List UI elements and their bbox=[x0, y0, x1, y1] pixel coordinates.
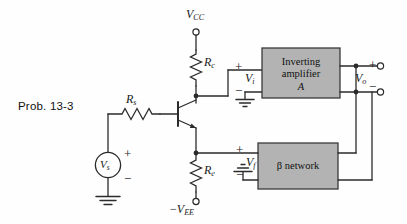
vf-plus-sign: + bbox=[236, 143, 243, 156]
rc-label: Rc bbox=[204, 56, 215, 70]
schematic-figure: Prob. 13-3 VCC Rc Re −VEE Rs Vs + − + − … bbox=[0, 0, 407, 224]
vi-minus-sign: − bbox=[235, 84, 242, 97]
vo-label: Vo bbox=[355, 72, 366, 86]
amplifier-label-line2: amplifier bbox=[262, 68, 340, 80]
vf-minus-sign: − bbox=[236, 168, 243, 181]
rc-resistor-icon bbox=[191, 50, 202, 86]
circuit-schematic-canvas bbox=[0, 0, 407, 224]
amplifier-label-line1: Inverting bbox=[262, 56, 340, 68]
vee-label: −VEE bbox=[170, 203, 194, 217]
beta-network-label-line1: β network bbox=[258, 160, 338, 172]
rs-resistor-icon bbox=[108, 109, 160, 120]
vi-label: Vi bbox=[245, 72, 255, 86]
vcc-terminal-icon bbox=[193, 29, 199, 35]
vo-minus-terminal-icon bbox=[377, 89, 383, 95]
vo-plus-sign: + bbox=[369, 58, 376, 71]
rs-label: Rs bbox=[126, 93, 137, 107]
vs-minus-sign: − bbox=[124, 172, 131, 185]
vcc-label: VCC bbox=[186, 8, 204, 22]
vs-plus-sign: + bbox=[124, 147, 131, 160]
vf-label: Vf bbox=[246, 156, 256, 170]
re-resistor-icon bbox=[191, 153, 202, 192]
beta-network-box-label: β network bbox=[258, 160, 338, 172]
vo-minus-sign: − bbox=[369, 80, 376, 93]
transistor-collector-lead bbox=[178, 100, 196, 108]
re-label: Re bbox=[204, 164, 215, 178]
amplifier-label-gain: A bbox=[262, 81, 340, 93]
problem-caption: Prob. 13-3 bbox=[18, 100, 74, 112]
amplifier-box-label: Inverting amplifier A bbox=[262, 56, 340, 93]
vo-plus-terminal-icon bbox=[377, 63, 383, 69]
vi-plus-sign: + bbox=[235, 60, 242, 73]
transistor-emitter-arrow-icon bbox=[190, 123, 196, 128]
vs-label: Vs bbox=[100, 159, 110, 172]
